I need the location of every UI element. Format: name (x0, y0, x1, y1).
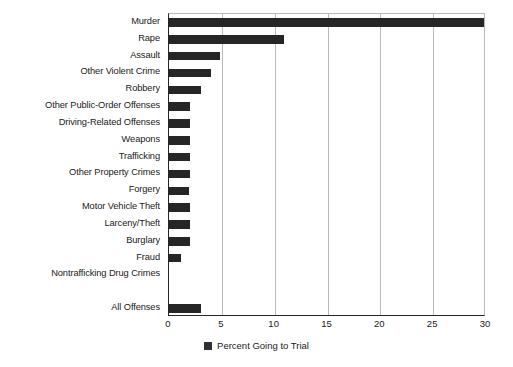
bar (169, 304, 201, 313)
category-label: Driving-Related Offenses (59, 117, 160, 127)
category-label: Motor Vehicle Theft (82, 201, 160, 211)
category-label: Other Property Crimes (69, 167, 160, 177)
bar (169, 254, 181, 263)
gridline-20 (380, 14, 381, 315)
legend-label: Percent Going to Trial (217, 340, 309, 351)
x-tick-20: 20 (374, 318, 385, 330)
bar (169, 119, 190, 128)
x-tick-0: 0 (165, 318, 170, 330)
legend-swatch-icon (204, 342, 212, 350)
bar (169, 69, 211, 78)
x-tick-25: 25 (427, 318, 438, 330)
category-label: Other Violent Crime (80, 66, 160, 76)
gridline-15 (328, 14, 329, 315)
plot-area (168, 13, 485, 316)
x-tick-15: 15 (321, 318, 332, 330)
category-label: Fraud (136, 252, 160, 262)
bar (169, 220, 190, 229)
category-label: Trafficking (119, 151, 160, 161)
category-label: Other Public-Order Offenses (45, 100, 160, 110)
bar (169, 35, 284, 44)
category-label: Larceny/Theft (104, 218, 160, 228)
category-label: Murder (131, 16, 160, 26)
category-label: Burglary (126, 235, 160, 245)
bar (169, 187, 189, 196)
x-tick-5: 5 (218, 318, 223, 330)
bar (169, 153, 190, 162)
gridline-5 (222, 14, 223, 315)
category-axis-labels: MurderRapeAssaultOther Violent CrimeRobb… (0, 13, 164, 316)
chart-legend: Percent Going to Trial (0, 340, 513, 351)
bar (169, 203, 190, 212)
bar (169, 102, 190, 111)
category-label: Robbery (126, 83, 160, 93)
x-tick-10: 10 (268, 318, 279, 330)
category-label: All Offenses (111, 302, 160, 312)
bar (169, 18, 484, 27)
bar (169, 86, 201, 95)
x-tick-30: 30 (480, 318, 491, 330)
category-label: Weapons (122, 134, 160, 144)
bar (169, 237, 190, 246)
bar (169, 136, 190, 145)
bar (169, 170, 190, 179)
category-label: Rape (138, 33, 160, 43)
bar-chart: MurderRapeAssaultOther Violent CrimeRobb… (0, 0, 513, 367)
x-axis-tick-labels: 051015202530 (168, 318, 485, 332)
gridline-25 (433, 14, 434, 315)
bar (169, 52, 220, 61)
category-label: Nontrafficking Drug Crimes (51, 268, 160, 278)
gridline-10 (275, 14, 276, 315)
category-label: Assault (130, 50, 160, 60)
category-label: Forgery (129, 184, 160, 194)
